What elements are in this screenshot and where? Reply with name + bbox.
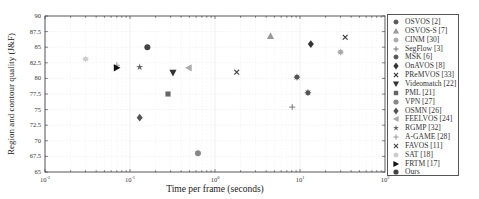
svg-text:80: 80 <box>35 74 42 81</box>
data-point-sat-18 <box>82 56 89 63</box>
axis-ticks: 10-210-11001011026567.57072.57577.58082.… <box>30 12 390 183</box>
svg-text:67.5: 67.5 <box>30 152 41 159</box>
data-point-onavos-8 <box>308 40 314 48</box>
data-point-vpn-27 <box>195 150 201 156</box>
data-point-favos-11 <box>234 70 239 75</box>
svg-text:85: 85 <box>35 43 42 50</box>
y-axis-label: Region and contour quality (J&F) <box>6 33 16 155</box>
data-point-osvos-s-7 <box>267 32 274 39</box>
legend-marker-icon <box>391 167 401 177</box>
svg-text:87.5: 87.5 <box>30 28 41 35</box>
data-point-ours <box>144 44 150 50</box>
svg-text:75: 75 <box>35 106 42 113</box>
grid <box>45 16 385 172</box>
svg-text:82.5: 82.5 <box>30 59 41 66</box>
svg-text:90: 90 <box>35 12 42 19</box>
svg-text:70: 70 <box>35 137 42 144</box>
svg-text:101: 101 <box>296 175 305 183</box>
data-point-cinm-30 <box>337 49 344 56</box>
svg-text:10-1: 10-1 <box>125 175 135 183</box>
data-point-msk-6 <box>294 74 301 81</box>
svg-text:100: 100 <box>211 175 221 183</box>
data-point-premvos-33 <box>343 35 348 40</box>
legend-label: Ours <box>405 167 420 177</box>
svg-text:77.5: 77.5 <box>30 90 41 97</box>
data-point-osvos-2 <box>305 89 312 96</box>
data-point-segflow-3 <box>289 104 295 110</box>
x-axis-label: Time per frame (seconds) <box>166 184 264 195</box>
svg-text:65: 65 <box>35 168 42 175</box>
legend: OSVOS [2]OSVOS-S [7]CINM [30]SegFlow [3]… <box>387 14 459 176</box>
svg-text:72.5: 72.5 <box>30 121 41 128</box>
data-point-feelvos-24 <box>185 64 192 71</box>
data-point-pml-21 <box>165 91 170 96</box>
svg-text:10-2: 10-2 <box>40 175 50 183</box>
legend-item: Ours <box>388 167 460 177</box>
data-point-rgmp-32 <box>136 64 143 71</box>
data-point-osmn-26 <box>137 114 143 122</box>
